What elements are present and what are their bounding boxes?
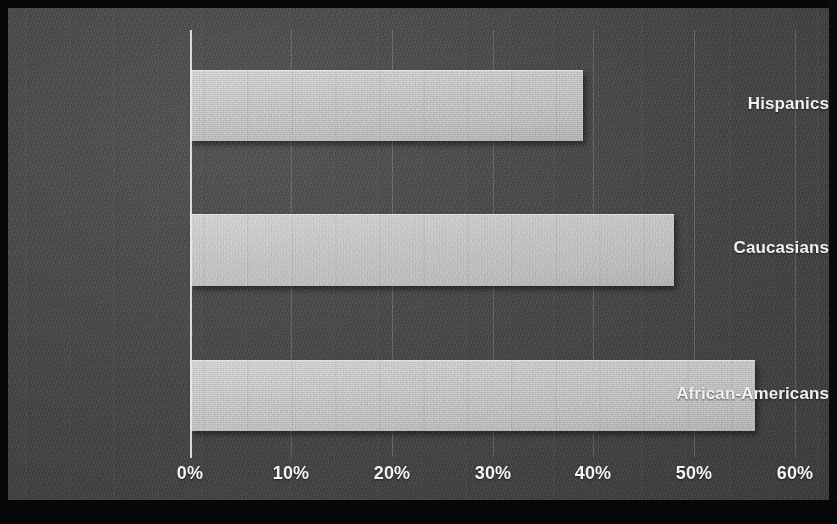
bar-texture bbox=[190, 71, 583, 141]
xtick-label-40: 40% bbox=[575, 463, 612, 484]
xtick-label-10: 10% bbox=[273, 463, 310, 484]
frame-edge-left bbox=[0, 0, 8, 524]
chart-plate: Hispanics Caucasians African-Americans 0… bbox=[8, 8, 829, 500]
bar-caucasians bbox=[190, 214, 674, 286]
frame-edge-bottom bbox=[0, 500, 837, 524]
value-axis-line bbox=[190, 30, 192, 458]
xtick-label-60: 60% bbox=[777, 463, 814, 484]
bar-hispanics bbox=[190, 70, 583, 141]
category-label-caucasians: Caucasians bbox=[663, 238, 829, 258]
frame-edge-top bbox=[0, 0, 837, 8]
xtick-label-30: 30% bbox=[475, 463, 512, 484]
bar-chart-image: Hispanics Caucasians African-Americans 0… bbox=[0, 0, 837, 524]
xtick-label-0: 0% bbox=[177, 463, 203, 484]
category-label-african-americans: African-Americans bbox=[663, 384, 829, 404]
bar-texture bbox=[190, 215, 674, 286]
frame-edge-right bbox=[829, 0, 837, 524]
xtick-label-50: 50% bbox=[676, 463, 713, 484]
xtick-label-20: 20% bbox=[374, 463, 411, 484]
category-label-hispanics: Hispanics bbox=[663, 94, 829, 114]
